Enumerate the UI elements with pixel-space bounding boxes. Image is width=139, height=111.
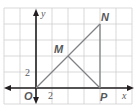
point-label-M: M xyxy=(54,43,64,55)
coordinate-diagram: y x 2 2 O M N P xyxy=(0,0,139,111)
y-axis-label: y xyxy=(40,8,46,19)
x-tick-2: 2 xyxy=(48,90,53,101)
point-label-P: P xyxy=(100,91,108,103)
origin-label: O xyxy=(24,90,33,102)
y-axis xyxy=(33,9,39,104)
diagram-canvas: y x 2 2 O M N P xyxy=(0,0,139,111)
x-axis-left-arrow-icon xyxy=(4,85,11,91)
point-label-N: N xyxy=(101,11,110,23)
y-tick-2: 2 xyxy=(25,67,30,78)
y-axis-up-arrow-icon xyxy=(33,9,39,16)
x-axis-right-arrow-icon xyxy=(127,85,134,91)
y-axis-down-arrow-icon xyxy=(33,97,39,104)
x-axis-label: x xyxy=(121,90,127,101)
